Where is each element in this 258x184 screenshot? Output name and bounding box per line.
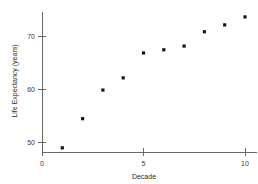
tick-labels: 5060700510 [27, 33, 249, 167]
data-point [243, 15, 246, 18]
x-tick-label: 0 [40, 160, 44, 167]
data-point [142, 51, 145, 54]
x-tick-label: 5 [142, 160, 146, 167]
y-tick-label: 50 [27, 139, 35, 146]
y-tick-label: 60 [27, 86, 35, 93]
data-point [61, 146, 64, 149]
axes [42, 12, 257, 152]
data-point [162, 48, 165, 51]
tick-marks [38, 36, 245, 156]
data-point [122, 76, 125, 79]
data-point [223, 23, 226, 26]
data-point [101, 88, 104, 91]
data-point [81, 117, 84, 120]
data-points [61, 15, 247, 149]
x-axis-title: Decade [132, 173, 156, 180]
plot-area: 5060700510 Decade Life Expectancy (years… [0, 0, 258, 184]
scatter-plot-figure: 5060700510 Decade Life Expectancy (years… [0, 0, 258, 184]
x-tick-label: 10 [241, 160, 249, 167]
y-tick-label: 70 [27, 33, 35, 40]
y-axis-title: Life Expectancy (years) [11, 44, 19, 117]
data-point [183, 44, 186, 47]
data-point [203, 30, 206, 33]
